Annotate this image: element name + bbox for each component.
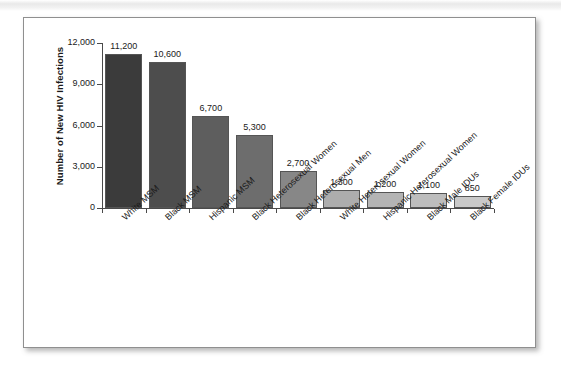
y-axis-title: Number of New HIV Infections xyxy=(54,30,68,202)
y-axis-tick-label: 0 xyxy=(53,202,95,212)
bar-value-label: 6,700 xyxy=(183,103,238,113)
y-axis-tick-mark xyxy=(97,167,102,168)
figure-card: Number of New HIV Infections 03,0006,000… xyxy=(23,17,536,348)
x-axis-tick-mark xyxy=(407,209,408,213)
y-axis-tick-mark xyxy=(97,84,102,85)
y-axis-tick-mark xyxy=(97,126,102,127)
bar-value-label: 5,300 xyxy=(227,122,282,132)
y-axis-tick-label: 12,000 xyxy=(53,37,95,47)
y-axis-tick-label: 3,000 xyxy=(53,161,95,171)
bar-chart: Number of New HIV Infections 03,0006,000… xyxy=(24,18,535,347)
x-axis-tick-mark xyxy=(233,209,234,213)
y-axis-tick-label: 9,000 xyxy=(53,78,95,88)
x-axis-tick-mark xyxy=(320,209,321,213)
x-axis-tick-mark xyxy=(276,209,277,213)
x-axis-tick-mark xyxy=(450,209,451,213)
page-top-strip xyxy=(0,0,561,11)
x-axis-tick-mark xyxy=(146,209,147,213)
y-axis-line xyxy=(102,43,103,209)
x-axis-tick-mark xyxy=(102,209,103,213)
x-axis-tick-mark xyxy=(363,209,364,213)
x-axis-tick-mark xyxy=(189,209,190,213)
x-axis-tick-mark xyxy=(494,209,495,213)
y-axis-tick-label: 6,000 xyxy=(53,120,95,130)
bar-value-label: 10,600 xyxy=(140,49,195,59)
bar[interactable] xyxy=(105,54,142,208)
